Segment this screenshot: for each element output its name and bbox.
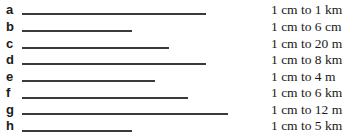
item-letter: c: [6, 37, 13, 51]
exercise-row-e: e 1 cm to 4 m: [0, 70, 358, 86]
scale-label: 1 cm to 8 km: [271, 53, 342, 67]
measure-line: [22, 63, 206, 65]
item-letter: b: [6, 20, 14, 34]
measure-line: [22, 30, 132, 32]
scale-label: 1 cm to 6 cm: [271, 20, 342, 34]
measure-line: [22, 97, 188, 99]
measure-line: [22, 130, 132, 132]
scale-label: 1 cm to 12 m: [271, 103, 342, 117]
item-letter: f: [6, 86, 10, 100]
scale-label: 1 cm to 20 m: [271, 37, 342, 51]
exercise-row-g: g 1 cm to 12 m: [0, 103, 358, 119]
scale-label: 1 cm to 6 km: [271, 86, 342, 100]
measure-line: [22, 47, 169, 49]
measure-line: [22, 80, 155, 82]
exercise-row-c: c 1 cm to 20 m: [0, 37, 358, 53]
measure-line: [22, 113, 228, 115]
item-letter: a: [6, 3, 13, 17]
item-letter: d: [6, 53, 14, 67]
item-letter: e: [6, 70, 13, 84]
exercise-row-f: f 1 cm to 6 km: [0, 86, 358, 102]
exercise-row-d: d 1 cm to 8 km: [0, 53, 358, 69]
exercise-row-b: b 1 cm to 6 cm: [0, 20, 358, 36]
exercise-row-a: a 1 cm to 1 km: [0, 3, 358, 19]
item-letter: h: [6, 119, 14, 133]
measure-line: [22, 13, 206, 15]
exercise-row-h: h 1 cm to 5 km: [0, 119, 358, 135]
item-letter: g: [6, 103, 14, 117]
scale-label: 1 cm to 5 km: [271, 119, 342, 133]
scale-label: 1 cm to 4 m: [271, 70, 336, 84]
scale-label: 1 cm to 1 km: [271, 3, 342, 17]
